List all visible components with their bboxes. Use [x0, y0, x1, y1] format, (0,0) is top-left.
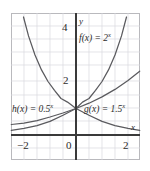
x-tick-label-0: 0	[66, 140, 72, 151]
x-axis-name: x	[131, 123, 135, 132]
curve-label-f: f(x) = 2x	[79, 30, 111, 43]
exponential-functions-figure: 4 2 −2 0 2 y x f(x) = 2x g(x) = 1.5x h(x…	[0, 0, 150, 171]
curve-label-g-text: g(x) = 1.5	[84, 104, 122, 114]
curve-label-f-exponent: x	[108, 31, 111, 38]
x-tick-label-2: 2	[123, 140, 129, 151]
x-tick-label-neg2: −2	[17, 140, 29, 151]
y-axis-name: y	[79, 17, 83, 26]
curve-label-g: g(x) = 1.5x	[84, 101, 125, 114]
curve-label-f-text: f(x) = 2	[79, 33, 108, 43]
y-tick-label-2: 2	[63, 75, 69, 86]
curve-label-h-exponent: x	[50, 102, 53, 109]
curve-label-g-exponent: x	[122, 102, 125, 109]
curve-label-h-text: h(x) = 0.5	[12, 104, 50, 114]
y-tick-label-4: 4	[62, 22, 68, 33]
curve-label-h: h(x) = 0.5x	[12, 101, 53, 114]
